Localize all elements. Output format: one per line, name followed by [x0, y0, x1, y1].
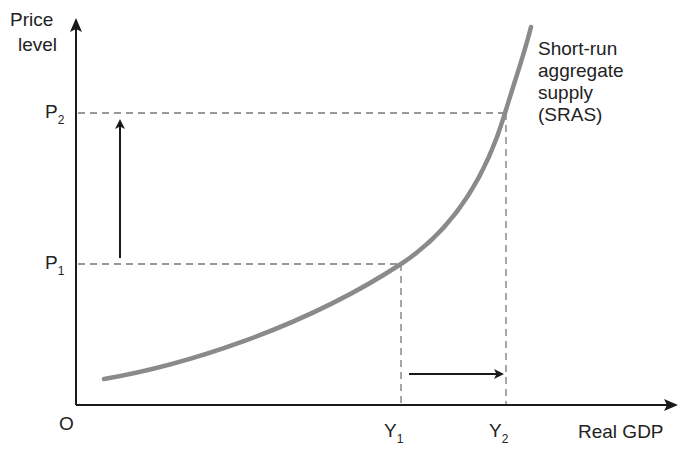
- curve-label-line2: aggregate: [538, 59, 624, 82]
- y-axis-label-line1: Price: [10, 8, 53, 31]
- y1-label: Y1: [384, 419, 403, 445]
- p2-label: P2: [45, 100, 64, 126]
- curve-label-line3: supply: [538, 81, 593, 104]
- curve-label-line1: Short-run: [538, 37, 617, 60]
- y2-label: Y2: [489, 419, 508, 445]
- sras-curve: [104, 27, 531, 379]
- y-axis-label-line2: level: [18, 33, 57, 56]
- x-axis-label: Real GDP: [578, 420, 664, 443]
- origin-label: O: [59, 412, 74, 435]
- curve-label-line4: (SRAS): [538, 103, 602, 126]
- p1-label: P1: [45, 251, 64, 277]
